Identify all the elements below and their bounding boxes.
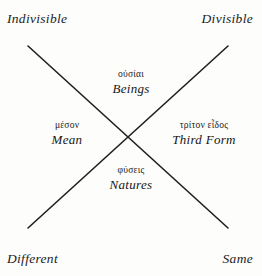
quadrant-left-english: Mean: [30, 133, 104, 146]
quadrant-left-greek: μέσον: [30, 121, 104, 131]
quadrant-right-greek: τρίτον εἶδος: [152, 121, 256, 131]
quadrant-label-left: μέσον Mean: [30, 121, 104, 146]
corner-label-bottom-left: Different: [7, 251, 58, 267]
quadrant-label-right: τρίτον εἶδος Third Form: [152, 121, 256, 146]
diagram-canvas: Indivisible Divisible Different Same οὐσ…: [0, 0, 262, 276]
quadrant-right-english: Third Form: [152, 133, 256, 146]
corner-label-top-left: Indivisible: [7, 11, 67, 27]
quadrant-bottom-english: Natures: [0, 178, 262, 191]
quadrant-label-top: οὐσίαι Beings: [0, 70, 262, 95]
quadrant-top-greek: οὐσίαι: [0, 70, 262, 80]
corner-label-top-right: Divisible: [202, 11, 253, 27]
corner-label-bottom-right: Same: [223, 251, 253, 267]
quadrant-bottom-greek: φύσεις: [0, 166, 262, 176]
quadrant-top-english: Beings: [0, 82, 262, 95]
quadrant-label-bottom: φύσεις Natures: [0, 166, 262, 191]
